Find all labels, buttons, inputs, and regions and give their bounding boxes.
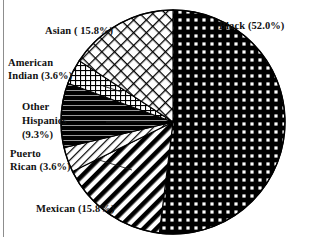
slice-label-mexican: Mexican (15.8%) — [36, 203, 114, 215]
slice-label-american-indian-line1: American — [8, 57, 53, 69]
slice-label-other-hispanics-line3: (9.3%) — [22, 129, 53, 141]
slice-label-puerto-rican-line2: Rican (3.6%) — [10, 161, 71, 173]
slice-label-asian: Asian ( 15.8%) — [45, 25, 113, 37]
slice-label-other-hispanics-line1: Other — [22, 101, 49, 113]
slice-label-american-indian-line2: Indian (3.6%) — [8, 70, 72, 82]
pie-slices — [61, 10, 285, 234]
pie-chart-figure: Black (52.0%) Asian ( 15.8%) American In… — [0, 0, 311, 245]
pie-slice-black — [159, 10, 285, 234]
slice-label-puerto-rican-line1: Puerto — [10, 148, 41, 160]
slice-label-black: Black (52.0%) — [219, 20, 284, 32]
slice-label-other-hispanics-line2: Hispanics — [22, 115, 67, 127]
